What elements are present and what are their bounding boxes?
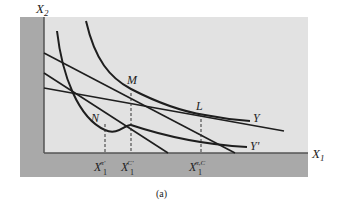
x-axis-label: X1	[311, 146, 324, 163]
curve-label-Y-prime: Y'	[250, 139, 260, 153]
tick-sub-x1-pi-prime: 1	[103, 168, 107, 177]
x-axis-band	[20, 153, 308, 177]
diagram: X2 X1 M N L Y Y' Xπ' 1 XC' 1 Xπ,C 1 (a)	[0, 0, 343, 208]
y-axis-label: X2	[35, 1, 49, 18]
figure-caption: (a)	[156, 188, 167, 200]
tick-sub-x1-c-prime: 1	[130, 168, 134, 177]
tick-sub-x1-pi-c: 1	[198, 168, 202, 177]
point-label-M: M	[126, 73, 138, 87]
point-label-L: L	[195, 99, 203, 113]
point-label-N: N	[90, 111, 100, 125]
